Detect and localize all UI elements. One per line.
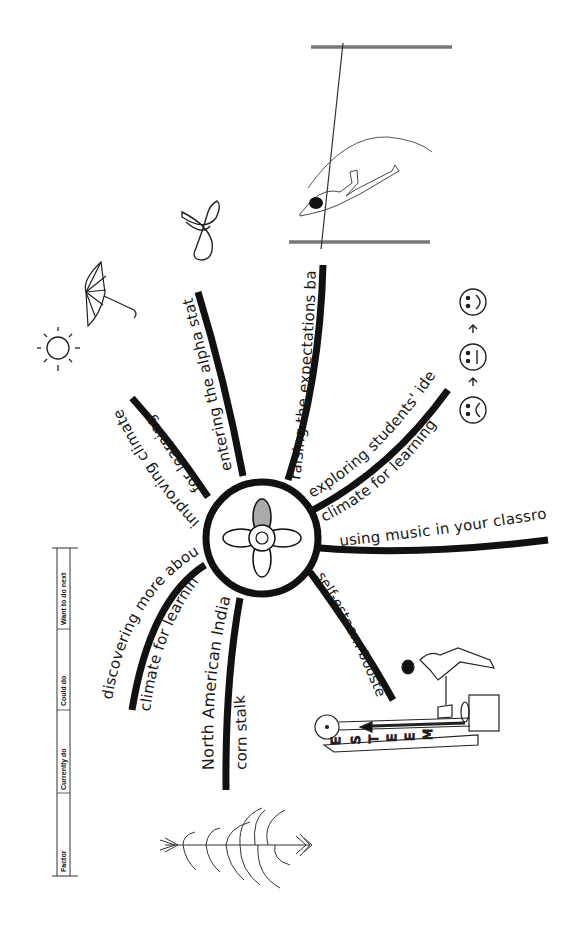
branch-label-music: using music in your classroom [0,0,548,550]
branch-label-corn-stalk: corn stalk [231,694,251,770]
mind-map: Factor Currently do Could do Want to do … [0,0,575,934]
esteem-letter: T [366,735,381,744]
table-header-currently-do: Currently do [60,748,68,790]
high-jumper-illustration [289,43,452,249]
reflection-table: Factor Currently do Could do Want to do … [52,548,78,876]
arrow-icon [469,325,477,333]
esteem-letter: S [348,736,363,744]
sun-icon [37,327,80,371]
table-header-could-do: Could do [60,676,67,706]
arrow-icon [469,378,477,386]
esteem-letter: E [384,734,399,742]
corn-stalk-illustration [160,808,312,888]
table-header-factor: Factor [60,850,67,872]
branch-label-expectations-bar: raising the expectations bar [0,0,320,481]
happy-face-icon [460,289,486,315]
branch-label-discovering-climate: climate for learning [0,0,202,712]
esteem-letter: E [402,733,417,741]
umbrella-icon [85,262,136,326]
neutral-face-icon [460,344,486,370]
center-hub[interactable] [206,482,318,594]
alpha-symbol-icon [182,201,219,260]
esteem-strength-tester-illustration: E S T E E M [315,648,499,752]
table-header-want-to-do-next: Want to do next [60,572,67,625]
esteem-letter: E [328,737,343,745]
esteem-letter: M [420,729,435,740]
mood-progression [460,289,486,423]
sad-face-icon [460,397,486,423]
